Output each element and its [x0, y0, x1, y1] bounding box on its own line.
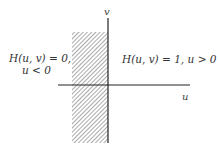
right-region-label: H(u, v) = 1, u > 0	[121, 53, 217, 65]
left-region-label-line2: u < 0	[22, 64, 51, 76]
heaviside-diagram: v u H(u, v) = 0, u < 0 H(u, v) = 1, u > …	[0, 0, 218, 151]
left-region-label-line1: H(u, v) = 0,	[8, 52, 71, 64]
u-axis-label: u	[182, 91, 188, 102]
v-axis-label: v	[104, 6, 110, 17]
hatched-region-u-negative	[72, 32, 108, 143]
